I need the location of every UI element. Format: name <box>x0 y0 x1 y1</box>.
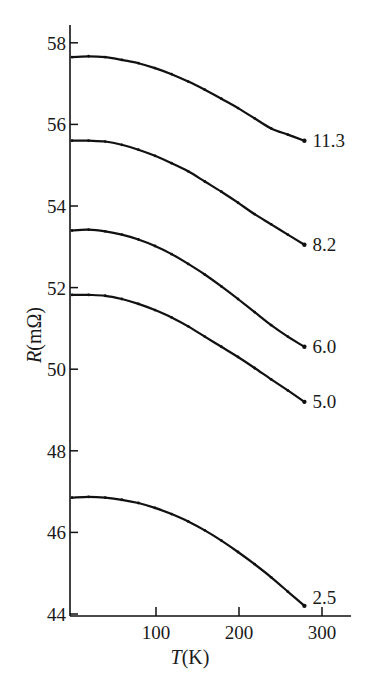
data-point <box>220 539 223 542</box>
data-point <box>104 56 107 59</box>
data-point <box>137 62 140 65</box>
data-point <box>286 133 289 136</box>
data-point <box>237 201 240 204</box>
data-point <box>120 233 123 236</box>
data-point <box>253 117 256 120</box>
data-point <box>71 229 74 232</box>
curve-end-marker <box>302 139 306 143</box>
curve-end-marker <box>302 345 306 349</box>
data-point <box>187 263 190 266</box>
data-point <box>120 498 123 501</box>
data-point <box>237 356 240 359</box>
data-point <box>71 56 74 59</box>
data-point <box>253 311 256 314</box>
data-point <box>154 507 157 510</box>
data-point <box>87 139 90 142</box>
y-tick-label: 52 <box>47 278 66 299</box>
data-point <box>87 55 90 58</box>
curve-label: 11.3 <box>312 130 345 151</box>
data-point <box>170 73 173 76</box>
y-tick-label: 54 <box>47 196 67 217</box>
data-point <box>237 551 240 554</box>
data-point <box>104 294 107 297</box>
data-point <box>170 162 173 165</box>
data-point <box>237 107 240 110</box>
data-point <box>270 378 273 381</box>
data-point <box>87 228 90 231</box>
data-point <box>170 253 173 256</box>
y-tick-label: 58 <box>47 33 66 54</box>
curve-end-marker <box>302 604 306 608</box>
data-point <box>137 238 140 241</box>
data-point <box>154 309 157 312</box>
curve-label: 5.0 <box>312 391 336 412</box>
data-point <box>203 335 206 338</box>
data-point <box>203 529 206 532</box>
data-point <box>187 520 190 523</box>
data-point <box>87 294 90 297</box>
y-tick-label: 50 <box>47 359 66 380</box>
data-point <box>270 223 273 226</box>
data-point <box>187 170 190 173</box>
data-point <box>154 245 157 248</box>
data-point <box>220 97 223 100</box>
curve-8-2 <box>72 141 304 245</box>
data-point <box>120 298 123 301</box>
data-point <box>270 576 273 579</box>
data-point <box>104 230 107 233</box>
data-point <box>71 496 74 499</box>
curve-2-5 <box>72 497 304 606</box>
curve-end-marker <box>302 400 306 404</box>
x-ticks: 100200300 <box>142 607 337 643</box>
data-point <box>203 180 206 183</box>
data-point <box>137 303 140 306</box>
data-point <box>104 140 107 143</box>
x-axis-title: T(K) <box>171 646 210 669</box>
data-point <box>71 294 74 297</box>
curve-6-0 <box>72 230 304 347</box>
x-tick-label: 100 <box>142 622 171 643</box>
curve-5-0 <box>72 295 304 402</box>
data-point <box>220 345 223 348</box>
data-point <box>270 127 273 130</box>
data-point <box>286 590 289 593</box>
data-point <box>253 213 256 216</box>
curve-labels: 11.38.26.05.02.5 <box>312 130 345 608</box>
data-point <box>120 143 123 146</box>
data-point <box>104 496 107 499</box>
y-ticks: 4446485052545658 <box>47 33 78 625</box>
data-point <box>154 154 157 157</box>
data-point <box>137 502 140 505</box>
data-point <box>137 148 140 151</box>
curve-label: 8.2 <box>312 234 336 255</box>
data-point <box>170 316 173 319</box>
x-tick-label: 300 <box>308 622 337 643</box>
curve-end-marker <box>302 243 306 247</box>
data-point <box>253 367 256 370</box>
data-point <box>187 80 190 83</box>
y-tick-label: 48 <box>47 441 66 462</box>
data-point <box>253 563 256 566</box>
y-tick-label: 56 <box>47 114 66 135</box>
data-point <box>87 496 90 499</box>
data-point <box>220 285 223 288</box>
y-tick-label: 46 <box>47 522 66 543</box>
data-point <box>286 335 289 338</box>
data-point <box>220 190 223 193</box>
data-point <box>71 139 74 142</box>
x-tick-label: 200 <box>225 622 254 643</box>
resistance-temperature-chart: 4446485052545658 100200300 11.38.26.05.0… <box>0 0 366 679</box>
curves <box>71 55 307 608</box>
curve-label: 2.5 <box>312 587 336 608</box>
data-point <box>187 325 190 328</box>
curve-label: 6.0 <box>312 336 336 357</box>
curve-11-3 <box>72 56 304 140</box>
data-point <box>154 67 157 70</box>
data-point <box>286 389 289 392</box>
data-point <box>270 324 273 327</box>
data-point <box>120 59 123 62</box>
data-point <box>203 273 206 276</box>
data-point <box>286 233 289 236</box>
data-point <box>203 88 206 91</box>
y-axis-title: R(mΩ) <box>23 307 46 364</box>
